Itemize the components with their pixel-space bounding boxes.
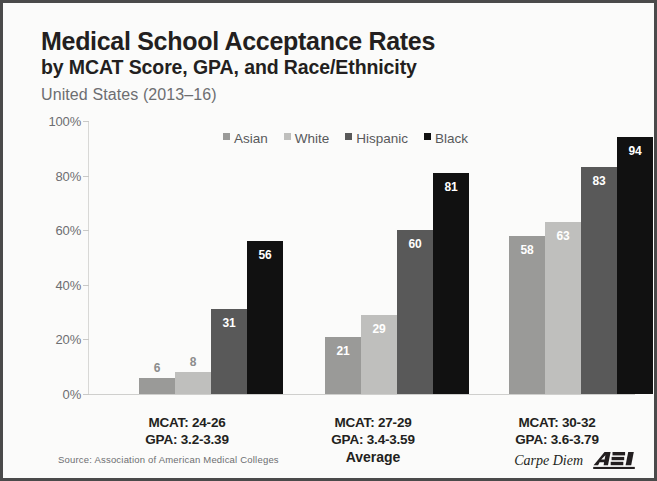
bar-value-label: 29 (361, 322, 397, 336)
chart-header: Medical School Acceptance Rates by MCAT … (41, 27, 601, 104)
bar-value-label: 60 (397, 237, 433, 251)
bar-white-group-1[interactable]: 8 (175, 372, 211, 394)
y-axis-tick-label: 20% (56, 332, 81, 347)
y-axis-tick-mark (83, 121, 89, 122)
y-axis-tick-label: 80% (56, 168, 81, 183)
bar-black-group-2[interactable]: 81 (433, 173, 469, 394)
y-axis: 0%20%40%60%80%100% (35, 121, 81, 394)
bar-group-3: 58638394 (509, 121, 653, 394)
bar-hispanic-group-3[interactable]: 83 (581, 167, 617, 394)
y-axis-tick-label: 100% (49, 114, 81, 129)
bar-value-label: 6 (139, 361, 175, 375)
chart-title-line-1: Medical School Acceptance Rates (41, 27, 601, 55)
category-label-3: MCAT: 30-32GPA: 3.6-3.79 (477, 415, 637, 448)
category-gpa-range: GPA: 3.4-3.59 (293, 432, 453, 449)
bar-hispanic-group-2[interactable]: 60 (397, 230, 433, 394)
y-axis-tick-label: 0% (63, 387, 81, 402)
x-axis-baseline (83, 394, 635, 395)
bar-value-label: 81 (433, 180, 469, 194)
y-axis-tick-label: 60% (56, 223, 81, 238)
bar-value-label: 63 (545, 229, 581, 243)
chart-title-line-2: by MCAT Score, GPA, and Race/Ethnicity (41, 56, 601, 79)
aei-logo-icon (592, 451, 636, 470)
bar-group-1: 683156 (139, 121, 283, 394)
chart-subtitle: United States (2013–16) (41, 86, 601, 104)
carpe-diem-wordmark: Carpe Diem (514, 453, 583, 469)
bar-group-2: 21296081 (325, 121, 469, 394)
category-gpa-range: GPA: 3.6-3.79 (477, 432, 637, 449)
bar-value-label: 8 (175, 355, 211, 369)
plot-area: 0%20%40%60%80%100% 683156212960815863839… (35, 121, 635, 411)
category-mcat-range: MCAT: 24-26 (107, 415, 267, 432)
chart-poster: Medical School Acceptance Rates by MCAT … (0, 0, 657, 481)
bar-asian-group-2[interactable]: 21 (325, 337, 361, 394)
bar-value-label: 21 (325, 344, 361, 358)
y-axis-tick-label: 40% (56, 277, 81, 292)
category-mcat-range: MCAT: 30-32 (477, 415, 637, 432)
y-axis-tick-mark (83, 176, 89, 177)
bar-value-label: 94 (617, 144, 653, 158)
bar-white-group-2[interactable]: 29 (361, 315, 397, 394)
bar-asian-group-1[interactable]: 6 (139, 378, 175, 394)
bar-value-label: 83 (581, 174, 617, 188)
y-axis-tick-mark (83, 339, 89, 340)
bar-value-label: 31 (211, 316, 247, 330)
category-label-1: MCAT: 24-26GPA: 3.2-3.39 (107, 415, 267, 448)
category-average-note: Average (293, 449, 453, 465)
category-mcat-range: MCAT: 27-29 (293, 415, 453, 432)
bar-asian-group-3[interactable]: 58 (509, 236, 545, 394)
category-label-2: MCAT: 27-29GPA: 3.4-3.59Average (293, 415, 453, 465)
bar-black-group-3[interactable]: 94 (617, 137, 653, 394)
bar-black-group-1[interactable]: 56 (247, 241, 283, 394)
category-gpa-range: GPA: 3.2-3.39 (107, 432, 267, 449)
branding: Carpe Diem (514, 451, 636, 470)
y-axis-tick-mark (83, 394, 89, 395)
bar-value-label: 58 (509, 243, 545, 257)
y-axis-tick-mark (83, 230, 89, 231)
bar-white-group-3[interactable]: 63 (545, 222, 581, 394)
bar-value-label: 56 (247, 248, 283, 262)
bar-hispanic-group-1[interactable]: 31 (211, 309, 247, 394)
source-note: Source: Association of American Medical … (58, 454, 279, 465)
bars-area: 6831562129608158638394 (89, 121, 635, 394)
y-axis-tick-mark (83, 285, 89, 286)
